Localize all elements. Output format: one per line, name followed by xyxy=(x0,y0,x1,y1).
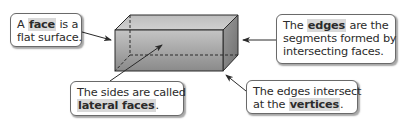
callout-edges: The edges are the segments formed by int… xyxy=(276,14,396,64)
term-face: face xyxy=(28,18,56,31)
arrow-vertices xyxy=(226,75,246,91)
term-edges: edges xyxy=(307,19,346,32)
term-lateral-faces: lateral faces xyxy=(77,99,156,112)
prism-front-face xyxy=(115,30,223,71)
callout-vertices: The edges intersect at the vertices. xyxy=(246,80,358,114)
arrow-face xyxy=(82,32,111,40)
callout-face: A face is a flat surface. xyxy=(10,13,82,47)
prism-top-face xyxy=(115,15,238,30)
rectangular-prism xyxy=(115,15,238,71)
callout-lateral-faces: The sides are called lateral faces. xyxy=(70,81,184,116)
term-vertices: vertices xyxy=(289,98,340,111)
